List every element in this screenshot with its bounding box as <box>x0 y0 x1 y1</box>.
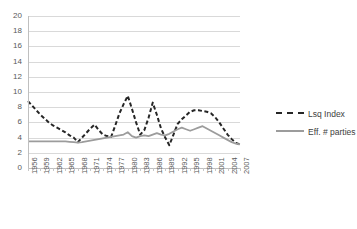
legend-label: Lsq Index <box>308 109 345 119</box>
y-axis-line <box>28 16 29 169</box>
x-axis-tick-label: 2004 <box>231 157 239 174</box>
x-axis-tick-label: 1956 <box>31 157 39 174</box>
x-axis-tick-label: 1959 <box>43 157 51 174</box>
x-axis-tick-mark <box>203 168 204 171</box>
y-axis-tick-label: 8 <box>0 103 22 111</box>
x-axis-tick-mark <box>190 168 191 171</box>
y-axis-tick-label: 18 <box>0 27 22 35</box>
x-axis-tick-label: 1995 <box>193 157 201 174</box>
x-axis-tick-label: 1980 <box>131 157 139 174</box>
y-axis-tick-label: 12 <box>0 73 22 81</box>
x-axis-tick-mark <box>128 168 129 171</box>
y-axis-tick-label: 20 <box>0 12 22 20</box>
legend-swatch-dashed-icon <box>276 112 304 114</box>
x-axis-tick-label: 1962 <box>56 157 64 174</box>
x-axis-tick-mark <box>178 168 179 171</box>
chart-legend: Lsq Index Eff. # parties <box>276 104 356 140</box>
x-axis-tick-mark <box>103 168 104 171</box>
x-axis-tick-mark <box>215 168 216 171</box>
y-axis-tick-label: 14 <box>0 58 22 66</box>
plot-area <box>28 16 240 168</box>
x-axis-tick-label: 1992 <box>181 157 189 174</box>
y-axis-tick-label: 2 <box>0 149 22 157</box>
x-axis-tick-label: 1971 <box>93 157 101 174</box>
x-axis-tick-label: 1968 <box>81 157 89 174</box>
series-lines <box>28 16 240 168</box>
x-axis-tick-mark <box>153 168 154 171</box>
x-axis-tick-label: 1998 <box>206 157 214 174</box>
x-axis-tick-label: 1977 <box>118 157 126 174</box>
y-axis-tick-label: 0 <box>0 164 22 172</box>
legend-item-lsq-index: Lsq Index <box>276 104 356 122</box>
x-axis-tick-label: 2001 <box>218 157 226 174</box>
x-axis-tick-label: 1974 <box>106 157 114 174</box>
legend-item-eff-parties: Eff. # parties <box>276 122 356 140</box>
x-axis-tick-label: 1989 <box>168 157 176 174</box>
x-axis-tick-mark <box>240 168 241 171</box>
y-axis-tick-label: 4 <box>0 134 22 142</box>
legend-label: Eff. # parties <box>308 127 356 137</box>
x-axis-tick-mark <box>53 168 54 171</box>
x-axis-tick-mark <box>28 168 29 171</box>
y-axis-tick-label: 10 <box>0 88 22 96</box>
y-axis-tick-label: 6 <box>0 118 22 126</box>
x-axis-tick-label: 2007 <box>243 157 251 174</box>
y-axis-tick-label: 16 <box>0 42 22 50</box>
x-axis-tick-mark <box>78 168 79 171</box>
x-axis-tick-label: 1965 <box>68 157 76 174</box>
x-axis-tick-label: 1983 <box>143 157 151 174</box>
chart-container: 02468101214161820 1956195919621965196819… <box>0 0 357 229</box>
x-axis-tick-mark <box>228 168 229 171</box>
legend-swatch-solid-icon <box>276 130 304 132</box>
x-axis-tick-label: 1986 <box>156 157 164 174</box>
